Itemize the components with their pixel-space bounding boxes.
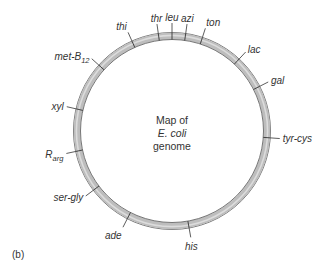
- marker-label: ade: [105, 230, 122, 241]
- center-title-line-3: genome: [153, 140, 191, 152]
- marker-leader: [157, 24, 158, 33]
- marker-leader: [128, 32, 132, 41]
- marker-label: ser-gly: [54, 192, 85, 203]
- marker-leader: [67, 107, 76, 109]
- marker-label: his: [185, 241, 198, 252]
- marker-label: Rarg: [45, 149, 64, 163]
- marker-label: met-B12: [54, 51, 90, 65]
- marker-label: gal: [271, 75, 285, 86]
- marker-leader: [270, 138, 279, 139]
- genome-map-diagram: thrleuazitonlacgaltyr-cyshisadeser-glyRa…: [0, 0, 320, 268]
- marker-label: xyl: [51, 101, 65, 112]
- center-title-line-1: Map of: [156, 114, 188, 126]
- marker-label: thi: [116, 21, 127, 32]
- marker-leader: [123, 219, 127, 227]
- marker-label: thr: [151, 13, 163, 24]
- marker-label: leu: [165, 12, 179, 23]
- marker-leader: [86, 190, 94, 196]
- marker-label: lac: [248, 44, 261, 55]
- marker-label: ton: [206, 17, 220, 28]
- marker-leader: [186, 24, 187, 33]
- gene-marker-met-b: met-B12: [54, 51, 104, 70]
- panel-label: (b): [12, 249, 24, 260]
- marker-label: azi: [181, 13, 195, 24]
- gene-marker-gal: gal: [254, 75, 285, 89]
- marker-leader: [260, 82, 268, 86]
- marker-label: tyr-cys: [283, 133, 312, 144]
- marker-leader: [202, 28, 205, 37]
- marker-leader: [189, 228, 191, 237]
- center-title-line-2: E. coli: [158, 127, 187, 139]
- marker-leader: [239, 52, 245, 59]
- marker-leader: [92, 59, 99, 65]
- marker-leader: [66, 151, 75, 153]
